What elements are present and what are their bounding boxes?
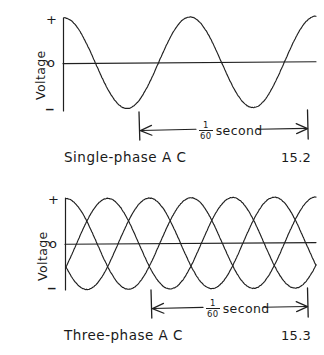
- y-tick-zero-three-phase: o: [49, 236, 57, 251]
- y-tick-zero-single-phase: o: [47, 55, 55, 70]
- dimension-label-single-phase: 1 60 second: [199, 121, 263, 140]
- dimension-label-three-phase: 1 60 second: [206, 299, 270, 318]
- y-tick-positive-three-phase: +: [48, 192, 59, 207]
- y-tick-negative-three-phase: _: [48, 272, 56, 290]
- zero-baseline-three-phase: [65, 243, 316, 245]
- fraction-one-sixtieth-three-phase: 1 60: [206, 299, 220, 318]
- panel-single-phase: [63, 16, 316, 140]
- dimension-unit-single-phase: second: [216, 123, 263, 138]
- figure-root: Voltage + o _ 1 60 second Single-phase A…: [0, 0, 324, 355]
- fraction-one-sixtieth-single-phase: 1 60: [199, 121, 213, 140]
- zero-baseline-single-phase: [63, 62, 316, 64]
- y-tick-positive-single-phase: +: [46, 12, 57, 27]
- waveform-canvas: [0, 0, 324, 355]
- figure-number-three-phase: 15.3: [281, 328, 311, 343]
- caption-single-phase: Single-phase A C: [64, 149, 186, 165]
- y-tick-negative-single-phase: _: [46, 93, 54, 111]
- panel-three-phase: [65, 197, 316, 318]
- caption-three-phase: Three-phase A C: [64, 327, 183, 343]
- figure-number-single-phase: 15.2: [281, 150, 311, 165]
- dimension-unit-three-phase: second: [223, 301, 270, 316]
